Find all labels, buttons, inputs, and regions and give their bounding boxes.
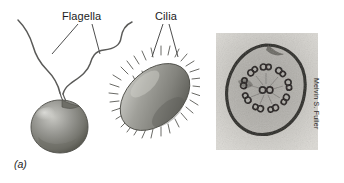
flagella-label: Flagella (62, 10, 101, 22)
flagellum-right (63, 22, 132, 94)
cilia-label: Cilia (155, 10, 177, 22)
cilia-leader-lines (152, 24, 178, 57)
flagellum-left (18, 20, 60, 93)
panel-a-illustration: Flagella Cilia (a) (0, 0, 200, 183)
flagella-leader-lines (52, 24, 100, 54)
micrograph-image (216, 33, 318, 150)
ciliated-cell (107, 46, 200, 144)
photo-credit: Melvin S. Fuller (313, 78, 320, 129)
figure-root: Flagella Cilia (a) (0, 0, 344, 183)
panel-a-caption: (a) (14, 158, 27, 170)
flagella-cilia-illustration (0, 0, 200, 183)
ciliated-cell-body (107, 50, 200, 144)
cell-body-highlight (35, 107, 63, 127)
film-grain (216, 33, 318, 150)
panel-b-micrograph: Melvin S. Fuller (b) (200, 0, 344, 183)
flagellated-cell (18, 20, 132, 153)
